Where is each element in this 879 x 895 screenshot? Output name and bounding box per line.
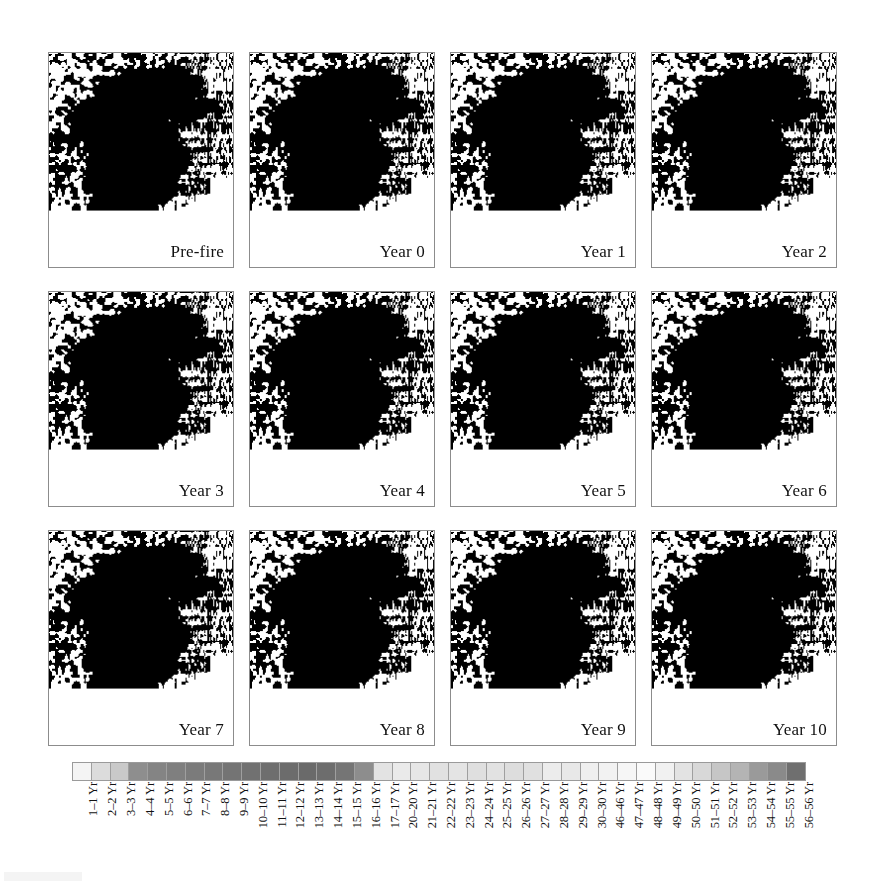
legend-swatch	[581, 763, 600, 780]
legend-swatch	[223, 763, 242, 780]
map-raster	[451, 531, 635, 745]
legend-label: 46–46 Yr	[614, 782, 627, 887]
legend-swatch	[73, 763, 92, 780]
legend-label: 4–4 Yr	[144, 782, 157, 887]
legend-label: 22–22 Yr	[445, 782, 458, 887]
map-panel-grid: Pre-fireYear 0Year 1Year 2Year 3Year 4Ye…	[48, 52, 838, 746]
legend-label: 12–12 Yr	[294, 782, 307, 887]
legend-swatch	[261, 763, 280, 780]
panel-year-0[interactable]: Year 0	[249, 52, 435, 268]
legend-swatch	[599, 763, 618, 780]
panel-pre-fire[interactable]: Pre-fire	[48, 52, 234, 268]
map-raster	[451, 292, 635, 506]
panel-year-8[interactable]: Year 8	[249, 530, 435, 746]
map-raster	[49, 53, 233, 267]
legend-label: 3–3 Yr	[125, 782, 138, 887]
panel-label: Year 7	[179, 720, 224, 740]
legend-label-row: 1–1 Yr2–2 Yr3–3 Yr4–4 Yr5–5 Yr6–6 Yr7–7 …	[72, 782, 806, 887]
legend-label: 13–13 Yr	[313, 782, 326, 887]
map-raster	[250, 53, 434, 267]
panel-year-7[interactable]: Year 7	[48, 530, 234, 746]
panel-label: Year 6	[782, 481, 827, 501]
legend-label: 1–1 Yr	[87, 782, 100, 887]
legend-swatch	[675, 763, 694, 780]
legend-swatch	[280, 763, 299, 780]
panel-year-5[interactable]: Year 5	[450, 291, 636, 507]
legend-label: 47–47 Yr	[633, 782, 646, 887]
panel-label: Year 4	[380, 481, 425, 501]
legend-label: 49–49 Yr	[671, 782, 684, 887]
legend-label: 14–14 Yr	[332, 782, 345, 887]
map-raster	[652, 292, 836, 506]
legend-swatch	[505, 763, 524, 780]
legend-swatch	[524, 763, 543, 780]
legend-label: 28–28 Yr	[558, 782, 571, 887]
panel-year-2[interactable]: Year 2	[651, 52, 837, 268]
legend-swatch	[186, 763, 205, 780]
panel-label: Year 5	[581, 481, 626, 501]
legend-swatch	[167, 763, 186, 780]
legend-label: 56–56 Yr	[803, 782, 816, 887]
legend-swatch	[430, 763, 449, 780]
legend-label: 54–54 Yr	[765, 782, 778, 887]
legend-swatch	[449, 763, 468, 780]
panel-year-3[interactable]: Year 3	[48, 291, 234, 507]
legend-label: 51–51 Yr	[709, 782, 722, 887]
legend-label: 2–2 Yr	[106, 782, 119, 887]
legend-swatch	[618, 763, 637, 780]
panel-year-9[interactable]: Year 9	[450, 530, 636, 746]
legend-swatch	[374, 763, 393, 780]
legend-label: 10–10 Yr	[257, 782, 270, 887]
legend-swatch	[468, 763, 487, 780]
legend-swatch	[637, 763, 656, 780]
legend-swatch	[355, 763, 374, 780]
legend-swatch	[148, 763, 167, 780]
legend-swatch	[336, 763, 355, 780]
map-raster	[250, 292, 434, 506]
map-raster	[652, 53, 836, 267]
map-raster	[49, 292, 233, 506]
legend-label: 9–9 Yr	[238, 782, 251, 887]
legend-label: 50–50 Yr	[690, 782, 703, 887]
legend: 1–1 Yr2–2 Yr3–3 Yr4–4 Yr5–5 Yr6–6 Yr7–7 …	[72, 762, 806, 781]
panel-label: Year 1	[581, 242, 626, 262]
legend-swatch	[750, 763, 769, 780]
legend-swatch	[768, 763, 787, 780]
panel-label: Year 9	[581, 720, 626, 740]
panel-label: Year 3	[179, 481, 224, 501]
panel-year-1[interactable]: Year 1	[450, 52, 636, 268]
legend-label: 17–17 Yr	[389, 782, 402, 887]
legend-colorbar	[72, 762, 806, 781]
map-raster	[652, 531, 836, 745]
panel-label: Year 2	[782, 242, 827, 262]
legend-label: 7–7 Yr	[200, 782, 213, 887]
panel-year-4[interactable]: Year 4	[249, 291, 435, 507]
legend-label: 48–48 Yr	[652, 782, 665, 887]
legend-swatch	[693, 763, 712, 780]
legend-label: 23–23 Yr	[464, 782, 477, 887]
map-raster	[49, 531, 233, 745]
legend-label: 29–29 Yr	[577, 782, 590, 887]
legend-label: 25–25 Yr	[501, 782, 514, 887]
legend-swatch	[411, 763, 430, 780]
legend-label: 20–20 Yr	[407, 782, 420, 887]
legend-swatch	[787, 763, 805, 780]
legend-label: 52–52 Yr	[727, 782, 740, 887]
panel-year-6[interactable]: Year 6	[651, 291, 837, 507]
map-raster	[250, 531, 434, 745]
legend-swatch	[205, 763, 224, 780]
legend-label: 27–27 Yr	[539, 782, 552, 887]
panel-label: Year 8	[380, 720, 425, 740]
legend-label: 6–6 Yr	[182, 782, 195, 887]
panel-label: Pre-fire	[170, 242, 224, 262]
legend-swatch	[712, 763, 731, 780]
legend-label: 53–53 Yr	[746, 782, 759, 887]
legend-swatch	[111, 763, 130, 780]
legend-label: 30–30 Yr	[596, 782, 609, 887]
figure-root: Pre-fireYear 0Year 1Year 2Year 3Year 4Ye…	[0, 0, 879, 895]
panel-year-10[interactable]: Year 10	[651, 530, 837, 746]
legend-label: 21–21 Yr	[426, 782, 439, 887]
legend-swatch	[92, 763, 111, 780]
legend-swatch	[731, 763, 750, 780]
scan-artifact	[4, 872, 82, 881]
